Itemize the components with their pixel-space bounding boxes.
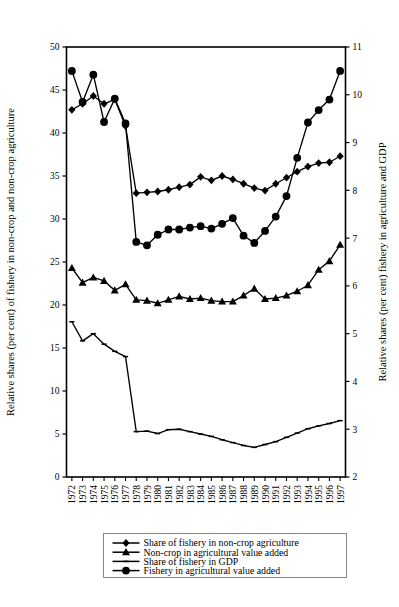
left-axis-tick-label: 15 (50, 343, 60, 353)
data-point (100, 118, 108, 126)
x-axis-tick-label: 1972 (67, 485, 77, 504)
x-axis-tick-label: 1996 (325, 485, 335, 504)
x-axis-tick-label: 1997 (336, 485, 346, 504)
data-point (250, 239, 258, 247)
left-axis-tick-label: 25 (50, 257, 60, 267)
data-point (229, 214, 237, 222)
right-axis-tick-label: 3 (353, 425, 358, 435)
left-axis-tick-label: 20 (50, 300, 60, 310)
legend: Share of fishery in non-crop agriculture… (104, 534, 347, 578)
x-axis-tick-label: 1987 (228, 485, 238, 504)
right-axis-tick-label: 5 (353, 329, 358, 339)
right-axis: 234567891011 (346, 42, 363, 482)
data-point (186, 224, 194, 232)
x-axis-tick-label: 1977 (121, 485, 131, 504)
left-axis-tick-label: 40 (50, 128, 60, 138)
data-point (240, 232, 248, 240)
legend-label: Fishery in agricultural value added (144, 565, 281, 576)
left-axis-tick-label: 0 (55, 472, 60, 482)
left-axis-tick-label: 50 (50, 42, 60, 52)
x-axis-tick-label: 1989 (250, 485, 260, 504)
right-axis-tick-label: 2 (353, 472, 358, 482)
right-axis-tick-label: 10 (353, 90, 363, 100)
x-axis: 1972197319741975197619771978197919801981… (67, 477, 345, 504)
data-point (175, 226, 183, 234)
x-axis-tick-label: 1988 (239, 485, 249, 504)
data-point (207, 225, 215, 233)
right-axis-tick-label: 8 (353, 186, 358, 196)
x-axis-tick-label: 1990 (261, 485, 271, 504)
data-point (304, 119, 312, 127)
x-axis-tick-label: 1984 (196, 485, 206, 504)
data-point (283, 192, 291, 200)
data-point (154, 231, 162, 239)
x-axis-tick-label: 1973 (78, 485, 88, 504)
data-point (111, 95, 119, 103)
right-axis-tick-label: 7 (353, 234, 358, 244)
data-point (143, 241, 151, 249)
right-axis-tick-label: 9 (353, 138, 358, 148)
x-axis-tick-label: 1992 (282, 485, 292, 504)
data-point (315, 106, 323, 114)
x-axis-tick-label: 1979 (143, 485, 153, 504)
x-axis-tick-label: 1991 (271, 485, 281, 504)
data-point (132, 238, 140, 246)
x-axis-tick-label: 1974 (89, 485, 99, 504)
legend-marker-circle (122, 567, 130, 575)
x-axis-tick-label: 1978 (132, 485, 142, 504)
chart-figure: 0510152025303540455023456789101119721973… (0, 0, 399, 607)
left-axis-tick-label: 10 (50, 386, 60, 396)
data-point (336, 67, 344, 75)
x-axis-tick-label: 1982 (175, 485, 185, 504)
x-axis-tick-label: 1986 (218, 485, 228, 504)
x-axis-tick-label: 1994 (304, 485, 314, 504)
data-point (218, 220, 226, 228)
x-axis-tick-label: 1993 (293, 485, 303, 504)
x-axis-tick-label: 1980 (153, 485, 163, 504)
data-point (122, 120, 130, 128)
data-point (293, 154, 301, 162)
left-axis: 05101520253035404550 (50, 42, 67, 482)
data-point (272, 213, 280, 221)
right-axis-tick-label: 6 (353, 281, 358, 291)
left-axis-tick-label: 30 (50, 214, 60, 224)
data-point (197, 222, 205, 230)
data-point (89, 71, 97, 79)
left-axis-tick-label: 5 (55, 429, 60, 439)
data-point (68, 67, 76, 75)
left-axis-tick-label: 35 (50, 171, 60, 181)
right-axis-tick-label: 4 (353, 377, 358, 387)
data-point (261, 227, 269, 235)
data-point (165, 226, 173, 234)
right-axis-tick-label: 11 (353, 42, 362, 52)
data-point (326, 96, 334, 104)
left-axis-tick-label: 45 (50, 85, 60, 95)
data-point (79, 98, 87, 106)
right-axis-title: Relative shares (per cent) fishery in ag… (377, 142, 389, 381)
x-axis-tick-label: 1981 (164, 485, 174, 504)
x-axis-tick-label: 1975 (100, 485, 110, 504)
x-axis-tick-label: 1995 (314, 485, 324, 504)
x-axis-tick-label: 1985 (207, 485, 217, 504)
chart-svg: 0510152025303540455023456789101119721973… (0, 0, 399, 607)
x-axis-tick-label: 1983 (186, 485, 196, 504)
left-axis-title: Relative shares (per cent) of fishery in… (5, 108, 17, 416)
x-axis-tick-label: 1976 (110, 485, 120, 504)
